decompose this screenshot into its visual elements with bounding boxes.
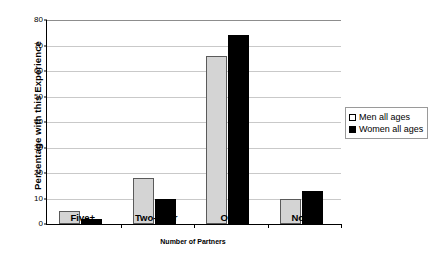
plot-area: 01020304050607080: [46, 20, 341, 225]
bar-group: [47, 20, 121, 224]
x-tick-mark: [341, 224, 342, 228]
x-tick-mark: [121, 224, 122, 228]
bar-group: [121, 20, 195, 224]
legend-item-men[interactable]: Men all ages: [349, 111, 423, 123]
x-axis-title: Number of Partners: [46, 238, 340, 245]
y-tick-label: 20: [34, 169, 43, 177]
legend-label-men: Men all ages: [359, 113, 410, 122]
y-tick-label: 70: [34, 42, 43, 50]
x-tick-mark: [194, 224, 195, 228]
bar-chart: Percentage with this Experience 01020304…: [0, 0, 434, 264]
x-tick-mark: [268, 224, 269, 228]
legend-swatch-men-icon: [349, 114, 356, 121]
y-tick-label: 80: [34, 16, 43, 24]
bar-men-one[interactable]: [206, 56, 227, 224]
legend-swatch-women-icon: [349, 126, 356, 133]
legend-label-women: Women all ages: [359, 125, 423, 134]
bar-women-one[interactable]: [228, 35, 249, 224]
y-tick-label: 60: [34, 67, 43, 75]
y-tick-label: 10: [34, 195, 43, 203]
x-tick-label-none: None: [253, 212, 353, 223]
bar-group: [268, 20, 342, 224]
legend-item-women[interactable]: Women all ages: [349, 123, 423, 135]
y-tick-label: 40: [34, 118, 43, 126]
bar-group: [194, 20, 268, 224]
chart-legend: Men all ages Women all ages: [345, 107, 428, 139]
y-tick-label: 30: [34, 144, 43, 152]
y-tick-label: 50: [34, 93, 43, 101]
